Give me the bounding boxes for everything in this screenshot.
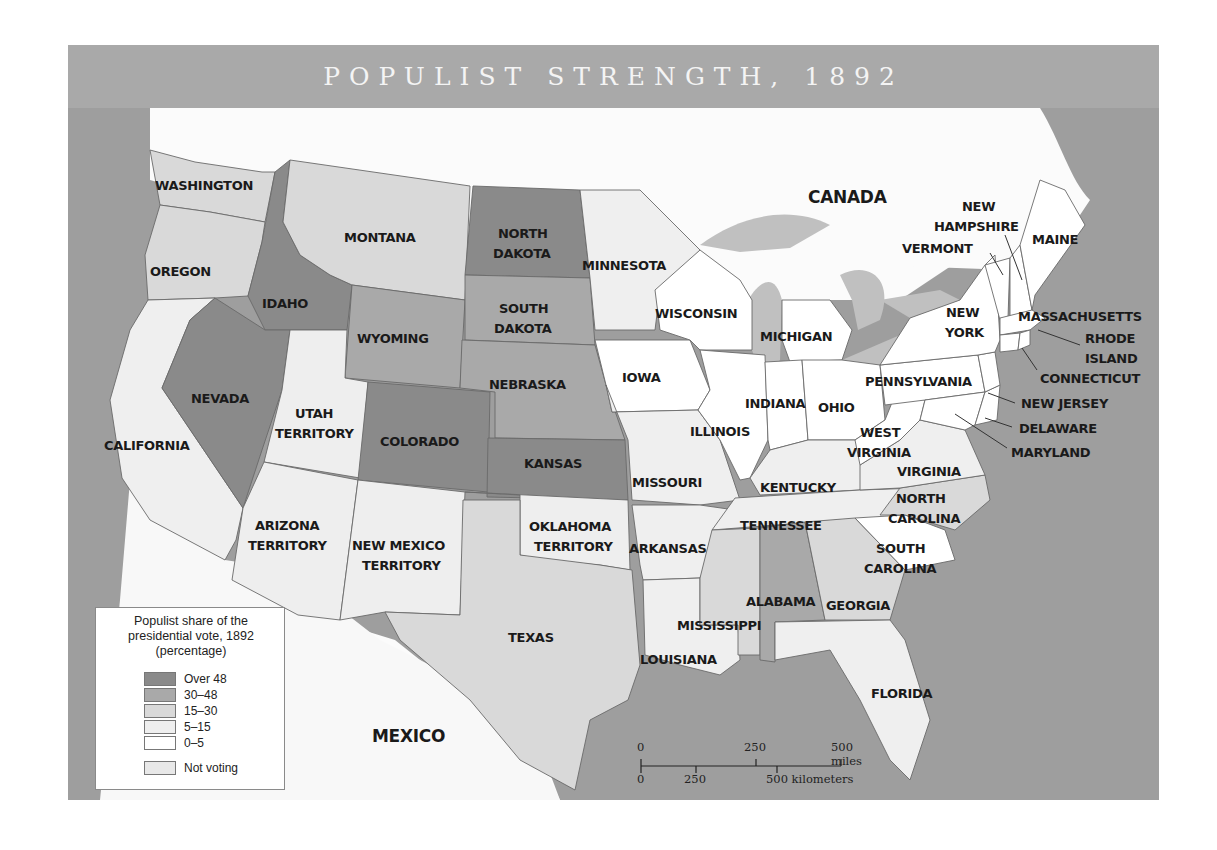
label-south-carolina-l2: CAROLINA xyxy=(864,561,937,576)
legend-swatch xyxy=(144,720,176,734)
label-south-dakota-l1: SOUTH xyxy=(499,301,548,316)
label-texas: TEXAS xyxy=(508,630,554,645)
label-vermont: VERMONT xyxy=(902,241,973,256)
label-oregon: OREGON xyxy=(150,264,211,279)
scale-bar: 0 250 500 miles 0 250 500 kilometers xyxy=(628,740,878,790)
label-missouri: MISSOURI xyxy=(632,475,702,490)
label-kansas: KANSAS xyxy=(524,456,582,471)
label-idaho: IDAHO xyxy=(262,296,308,311)
legend-title-line3: (percentage) xyxy=(96,644,286,659)
label-wyoming: WYOMING xyxy=(357,331,429,346)
legend-item-5-15: 5–15 xyxy=(144,719,211,734)
label-michigan: MICHIGAN xyxy=(760,329,832,344)
legend-label: 15–30 xyxy=(184,704,217,718)
legend-label: Not voting xyxy=(184,761,238,775)
label-alabama: ALABAMA xyxy=(746,594,816,609)
state-connecticut[interactable] xyxy=(1000,333,1020,352)
label-arkansas: ARKANSAS xyxy=(629,541,706,556)
label-new-york-l2: YORK xyxy=(944,325,985,340)
label-utah-l2: TERRITORY xyxy=(275,426,354,441)
label-mexico: MEXICO xyxy=(372,726,445,746)
legend-title-line2: presidential vote, 1892 xyxy=(96,629,286,644)
scale-km-250: 250 xyxy=(684,772,706,786)
label-kentucky: KENTUCKY xyxy=(760,480,837,495)
legend-swatch xyxy=(144,736,176,750)
label-north-carolina-l1: NORTH xyxy=(896,491,946,506)
label-new-hampshire-l2: HAMPSHIRE xyxy=(934,219,1019,234)
label-oklahoma-l2: TERRITORY xyxy=(534,539,613,554)
legend-title-line1: Populist share of the xyxy=(96,614,286,629)
label-georgia: GEORGIA xyxy=(826,598,890,613)
title-band: POPULIST STRENGTH, 1892 xyxy=(68,45,1159,108)
legend-title: Populist share of the presidential vote,… xyxy=(96,614,286,659)
label-maine: MAINE xyxy=(1032,232,1078,247)
label-north-dakota-l1: NORTH xyxy=(498,226,548,241)
label-new-jersey: NEW JERSEY xyxy=(1021,396,1109,411)
label-oklahoma-l1: OKLAHOMA xyxy=(529,519,611,534)
label-delaware: DELAWARE xyxy=(1019,421,1097,436)
legend-label: 30–48 xyxy=(184,688,217,702)
label-louisiana: LOUISIANA xyxy=(640,652,717,667)
label-colorado: COLORADO xyxy=(380,434,459,449)
scale-km-0: 0 xyxy=(637,772,644,786)
label-florida: FLORIDA xyxy=(871,686,933,701)
label-california: CALIFORNIA xyxy=(104,438,190,453)
legend-item-not-voting: Not voting xyxy=(144,760,238,775)
label-wisconsin: WISCONSIN xyxy=(655,306,737,321)
map-title: POPULIST STRENGTH, 1892 xyxy=(323,62,904,91)
label-new-mexico-l1: NEW MEXICO xyxy=(352,538,445,553)
label-north-carolina-l2: CAROLINA xyxy=(888,511,961,526)
legend-label: 0–5 xyxy=(184,736,204,750)
label-utah-l1: UTAH xyxy=(295,406,333,421)
label-west-virginia-l2: VIRGINIA xyxy=(847,445,911,460)
legend: Populist share of the presidential vote,… xyxy=(95,607,285,790)
legend-swatch xyxy=(144,761,176,775)
label-new-york-l1: NEW xyxy=(946,305,979,320)
label-nevada: NEVADA xyxy=(191,391,249,406)
label-canada: CANADA xyxy=(808,187,888,207)
label-rhode-island-l1: RHODE xyxy=(1085,331,1135,346)
legend-swatch xyxy=(144,704,176,718)
legend-swatch xyxy=(144,688,176,702)
scale-km-500: 500 kilometers xyxy=(766,772,853,786)
label-pennsylvania: PENNSYLVANIA xyxy=(865,374,972,389)
label-maryland: MARYLAND xyxy=(1011,445,1091,460)
label-minnesota: MINNESOTA xyxy=(582,258,666,273)
legend-item-0-5: 0–5 xyxy=(144,735,204,750)
label-iowa: IOWA xyxy=(622,370,661,385)
label-montana: MONTANA xyxy=(344,230,416,245)
label-illinois: ILLINOIS xyxy=(690,424,750,439)
label-rhode-island-l2: ISLAND xyxy=(1085,351,1138,366)
label-virginia: VIRGINIA xyxy=(897,464,961,479)
legend-label: Over 48 xyxy=(184,672,227,686)
label-ohio: OHIO xyxy=(818,400,855,415)
label-west-virginia-l1: WEST xyxy=(860,425,901,440)
legend-item-over-48: Over 48 xyxy=(144,671,227,686)
label-arizona-l2: TERRITORY xyxy=(248,538,327,553)
label-arizona-l1: ARIZONA xyxy=(255,518,319,533)
legend-label: 5–15 xyxy=(184,720,211,734)
legend-item-30-48: 30–48 xyxy=(144,687,217,702)
legend-item-15-30: 15–30 xyxy=(144,703,217,718)
label-tennessee: TENNESSEE xyxy=(740,518,822,533)
state-oregon[interactable] xyxy=(145,205,265,300)
label-new-mexico-l2: TERRITORY xyxy=(362,558,441,573)
label-north-dakota-l2: DAKOTA xyxy=(493,246,551,261)
label-nebraska: NEBRASKA xyxy=(489,377,566,392)
label-connecticut: CONNECTICUT xyxy=(1040,371,1141,386)
label-massachusetts: MASSACHUSETTS xyxy=(1018,309,1142,324)
label-south-dakota-l2: DAKOTA xyxy=(494,321,552,336)
label-new-hampshire-l1: NEW xyxy=(962,199,995,214)
label-washington: WASHINGTON xyxy=(155,178,253,193)
legend-swatch xyxy=(144,672,176,686)
label-indiana: INDIANA xyxy=(745,396,805,411)
label-mississippi: MISSISSIPPI xyxy=(677,618,761,633)
label-south-carolina-l1: SOUTH xyxy=(876,541,925,556)
